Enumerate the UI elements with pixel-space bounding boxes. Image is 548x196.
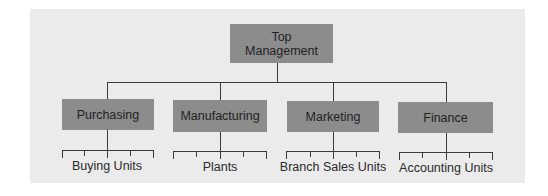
top-management-label-line2: Management bbox=[245, 44, 318, 58]
purchasing-down-connector bbox=[107, 130, 108, 158]
purchasing-box: Purchasing bbox=[62, 99, 154, 130]
manufacturing-tick bbox=[266, 151, 267, 159]
purchasing-tick bbox=[62, 150, 63, 158]
buying-units-label: Buying Units bbox=[72, 159, 142, 173]
manufacturing-tick bbox=[173, 151, 174, 159]
manufacturing-tick bbox=[243, 151, 244, 157]
finance-down-connector bbox=[446, 133, 447, 160]
accounting-units-label: Accounting Units bbox=[399, 161, 493, 175]
purchasing-tick bbox=[153, 150, 154, 158]
marketing-tick bbox=[286, 151, 287, 159]
manufacturing-bracket bbox=[173, 151, 267, 152]
plants-label: Plants bbox=[203, 160, 238, 174]
connector-marketing bbox=[333, 82, 334, 101]
manufacturing-label: Manufacturing bbox=[180, 109, 259, 123]
connector-root-down bbox=[277, 63, 278, 82]
purchasing-tick bbox=[84, 150, 85, 156]
top-management-box: Top Management bbox=[230, 24, 333, 63]
marketing-bracket bbox=[286, 151, 380, 152]
manufacturing-tick bbox=[196, 151, 197, 157]
finance-tick bbox=[422, 152, 423, 158]
finance-tick bbox=[469, 152, 470, 158]
manufacturing-box: Manufacturing bbox=[173, 100, 267, 132]
top-management-label-line1: Top bbox=[271, 30, 291, 44]
marketing-down-connector bbox=[333, 132, 334, 159]
manufacturing-down-connector bbox=[220, 132, 221, 159]
connector-finance bbox=[446, 82, 447, 102]
marketing-box: Marketing bbox=[287, 101, 379, 132]
finance-tick bbox=[492, 152, 493, 160]
finance-box: Finance bbox=[398, 102, 493, 133]
finance-bracket bbox=[399, 152, 493, 153]
connector-purchasing bbox=[107, 82, 108, 99]
purchasing-bracket bbox=[62, 150, 154, 151]
purchasing-label: Purchasing bbox=[77, 108, 140, 122]
connector-manufacturing bbox=[220, 82, 221, 100]
finance-tick bbox=[399, 152, 400, 160]
marketing-tick bbox=[356, 151, 357, 157]
marketing-label: Marketing bbox=[306, 110, 361, 124]
branch-sales-units-label: Branch Sales Units bbox=[280, 160, 386, 174]
finance-label: Finance bbox=[423, 111, 467, 125]
marketing-tick bbox=[310, 151, 311, 157]
purchasing-tick bbox=[130, 150, 131, 156]
marketing-tick bbox=[379, 151, 380, 159]
connector-horizontal-bus bbox=[107, 82, 447, 83]
